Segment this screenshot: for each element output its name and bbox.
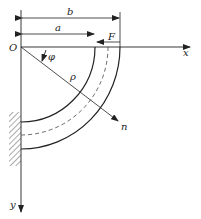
angle-label: φ [48,51,55,62]
force-label: F [107,31,116,42]
dimension-b-label: b [67,6,73,17]
y-axis-label: y [9,199,16,210]
centroid-arc [21,47,108,135]
dimension-a-label: a [55,22,61,33]
normal-label: n [121,121,127,132]
normal-n-arrow [21,47,118,121]
angle-phi-arrow [42,50,46,61]
origin-label: O [9,42,17,53]
radius-label: ρ [69,71,76,82]
fixed-wall-hatch [9,112,21,166]
curved-beam-diagram: O x y b a F φ ρ n [0,0,201,219]
inner-arc [21,47,95,122]
x-axis-label: x [183,47,189,58]
